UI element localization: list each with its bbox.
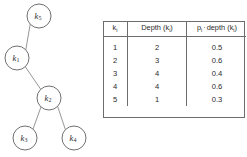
table-row: 3 4 0.4 bbox=[103, 67, 246, 80]
cell-product: 0.6 bbox=[187, 80, 247, 93]
table-header: ki Depth (ki) pi·depth (ki) bbox=[103, 21, 246, 37]
cell-depth: 3 bbox=[128, 54, 187, 67]
table-body: 1 2 0.5 2 3 0.6 3 4 0.4 4 4 0.6 bbox=[103, 37, 246, 107]
tree-node-k2[interactable]: k2 bbox=[37, 86, 61, 110]
column-header-k-subscript: i bbox=[116, 28, 117, 34]
tree-edges bbox=[25, 24, 65, 130]
depth-cost-table: ki Depth (ki) pi·depth (ki) 1 2 0.5 2 3 … bbox=[103, 21, 246, 106]
edge-k1-k2 bbox=[25, 67, 40, 89]
table-row: 2 3 0.6 bbox=[103, 54, 246, 67]
tree-node-k4[interactable]: k4 bbox=[62, 126, 86, 150]
cell-product: 0.6 bbox=[187, 54, 247, 67]
cell-depth: 2 bbox=[128, 37, 187, 55]
cell-product: 0.5 bbox=[187, 37, 247, 55]
tree-node-k1[interactable]: k1 bbox=[5, 46, 29, 70]
tree-node-k5[interactable]: k5 bbox=[27, 4, 51, 28]
cell-k: 3 bbox=[103, 67, 128, 80]
table-row: 4 4 0.6 bbox=[103, 80, 246, 93]
cell-k: 5 bbox=[103, 93, 128, 106]
column-header-product-mid: depth (k bbox=[207, 23, 234, 32]
edge-k2-k3 bbox=[33, 107, 41, 129]
tree-nodes: k5 k1 k2 bbox=[5, 4, 86, 150]
column-header-depth-suffix: ) bbox=[170, 23, 172, 32]
tree-diagram: k5 k1 k2 bbox=[0, 0, 100, 157]
figure-root: k5 k1 k2 bbox=[0, 0, 246, 157]
column-header-depth: Depth (ki) bbox=[128, 21, 187, 37]
cell-depth: 4 bbox=[128, 80, 187, 93]
table-panel: ki Depth (ki) pi·depth (ki) 1 2 0.5 2 3 … bbox=[103, 21, 246, 119]
edge-k2-k4 bbox=[58, 106, 66, 129]
cell-depth: 1 bbox=[128, 93, 187, 106]
column-header-k: ki bbox=[103, 21, 128, 37]
table-row: 1 2 0.5 bbox=[103, 37, 246, 55]
cell-k: 2 bbox=[103, 54, 128, 67]
cell-k: 1 bbox=[103, 37, 128, 55]
table-row: 5 1 0.3 bbox=[103, 93, 246, 106]
column-header-product-suffix: ) bbox=[235, 23, 237, 32]
tree-node-k3[interactable]: k3 bbox=[13, 126, 37, 150]
column-header-depth-label: Depth (k bbox=[141, 23, 169, 32]
cell-depth: 4 bbox=[128, 67, 187, 80]
table-header-row: ki Depth (ki) pi·depth (ki) bbox=[103, 21, 246, 37]
cell-product: 0.3 bbox=[187, 93, 247, 106]
cell-product: 0.4 bbox=[187, 67, 247, 80]
cell-k: 4 bbox=[103, 80, 128, 93]
tree-svg: k5 k1 k2 bbox=[0, 0, 100, 157]
edge-k5-k1 bbox=[26, 24, 30, 50]
column-header-product: pi·depth (ki) bbox=[187, 21, 247, 37]
